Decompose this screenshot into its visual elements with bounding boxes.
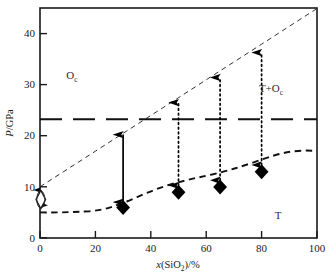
x-axis-ticks — [40, 231, 317, 238]
y-axis-title-unit: /GPa — [4, 109, 15, 130]
region-label-oc: Oc — [66, 69, 78, 84]
chart-canvas: 0 10 20 30 40 0 20 40 60 80 100 P/GPa x(… — [0, 0, 333, 274]
x-tick-label-80: 80 — [256, 242, 268, 254]
x-tick-label-20: 20 — [90, 242, 102, 254]
x-axis-title-close: )/% — [185, 259, 200, 271]
x-axis-title-open: (SiO — [161, 259, 181, 271]
data-markers — [36, 164, 269, 215]
x-axis-title: x(SiO2)/% — [155, 259, 200, 273]
x-tick-label-0: 0 — [37, 242, 43, 254]
open-marker-0 — [36, 190, 46, 208]
filled-marker-80 — [255, 164, 269, 179]
filled-marker-50 — [172, 185, 186, 200]
region-label-t-plus-oc-base: T+O — [259, 82, 280, 94]
y-tick-label-0: 0 — [30, 232, 36, 244]
region-label-oc-subscript: c — [74, 75, 78, 84]
region-label-oc-base: O — [66, 69, 74, 81]
y-tick-label-10: 10 — [24, 181, 36, 193]
x-tick-label-100: 100 — [309, 242, 326, 254]
filled-marker-65 — [213, 180, 227, 195]
x-tick-label-40: 40 — [145, 242, 157, 254]
svg-text:P/GPa: P/GPa — [4, 109, 15, 138]
phase-diagram-figure: 0 10 20 30 40 0 20 40 60 80 100 P/GPa x(… — [0, 0, 333, 274]
y-tick-label-30: 30 — [24, 78, 36, 90]
x-tick-label-60: 60 — [201, 242, 213, 254]
region-label-t-plus-oc: T+Oc — [259, 82, 284, 97]
region-label-t-plus-oc-subscript: c — [280, 88, 284, 97]
y-axis-title: P/GPa — [4, 109, 15, 138]
filled-marker-30 — [116, 200, 130, 215]
y-tick-label-40: 40 — [24, 27, 36, 39]
region-label-t: T — [275, 209, 282, 221]
y-tick-label-20: 20 — [24, 129, 36, 141]
